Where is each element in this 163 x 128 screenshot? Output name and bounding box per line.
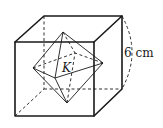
octahedron-label: K bbox=[61, 61, 72, 75]
cube-top-face-edges bbox=[15, 16, 122, 42]
hidden-edge-bottom-left-depth bbox=[15, 89, 44, 116]
cube-front-face bbox=[15, 42, 94, 116]
cube-octahedron-diagram: K 6 cm bbox=[0, 0, 163, 128]
cube-right-face-edges bbox=[94, 16, 122, 116]
edge-length-label: 6 cm bbox=[124, 46, 154, 60]
hidden-edge-right-back bbox=[75, 53, 103, 63]
edge-bottom-front bbox=[55, 78, 67, 103]
